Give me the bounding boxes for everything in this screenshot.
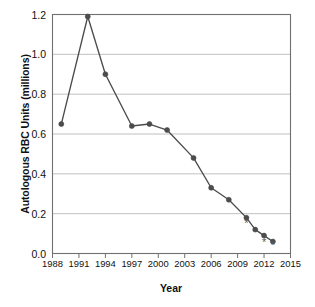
- data-point: [59, 122, 64, 127]
- x-tick-label: 2003: [174, 258, 195, 269]
- chart-figure: Autologous RBC Units (millions) 0.0 0.2 …: [0, 0, 315, 307]
- data-point: [129, 124, 134, 129]
- x-tick-label: 2000: [148, 258, 169, 269]
- x-tick-label: 2015: [280, 258, 301, 269]
- data-point: [103, 72, 108, 77]
- x-tick-label: 1988: [42, 258, 63, 269]
- data-point: [85, 14, 90, 19]
- x-tick-label: 1994: [95, 258, 116, 269]
- x-axis-label: Year: [52, 282, 290, 294]
- asterisk-annotation: *: [262, 236, 267, 248]
- x-tick-label: 2012: [254, 258, 275, 269]
- x-tick-label: 2009: [227, 258, 248, 269]
- data-point: [253, 227, 258, 232]
- asterisk-annotation: *: [244, 217, 249, 229]
- asterisk-annotation: *: [271, 239, 276, 251]
- x-tick-label: 1997: [121, 258, 142, 269]
- x-tick-label: 2006: [201, 258, 222, 269]
- data-point: [191, 155, 196, 160]
- data-point: [147, 122, 152, 127]
- x-tick-label: 1991: [69, 258, 90, 269]
- data-point: [165, 128, 170, 133]
- data-point: [226, 197, 231, 202]
- data-point: [209, 185, 214, 190]
